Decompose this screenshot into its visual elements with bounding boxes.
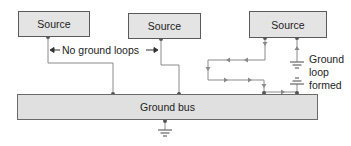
ground-symbol-icon [290, 62, 304, 68]
source-label: Source [148, 20, 181, 32]
arrow-down-icon [263, 42, 268, 46]
source-box-3: Source [249, 11, 327, 38]
ground-loop-label-line3: formed [309, 79, 342, 91]
source-box-2: Source [128, 13, 201, 39]
ground-bus-label: Ground bus [140, 101, 195, 113]
arrow-left-icon [50, 48, 54, 53]
ground-symbol-icon [290, 78, 304, 84]
arrow-down-icon [262, 84, 267, 88]
ground-bus: Ground bus [17, 94, 318, 120]
ground-loop-label-line2: loop [309, 66, 329, 78]
source-label: Source [271, 19, 304, 31]
arrow-right-icon [154, 48, 158, 53]
ground-symbol-icon [158, 130, 172, 136]
ground-loop-label-line1: Ground [309, 53, 344, 65]
source2-ground-wire [161, 38, 179, 94]
source3-loop-wire [208, 37, 265, 92]
no-ground-loops-label: No ground loops [62, 44, 139, 56]
arrow-left-icon [244, 58, 248, 63]
source-label: Source [37, 18, 70, 30]
arrow-right-icon [248, 78, 252, 83]
arrow-left-icon [226, 58, 230, 63]
source-box-1: Source [18, 11, 90, 37]
arrow-down-icon [206, 67, 211, 71]
arrow-up-icon [295, 46, 300, 50]
arrow-right-icon [224, 78, 228, 83]
